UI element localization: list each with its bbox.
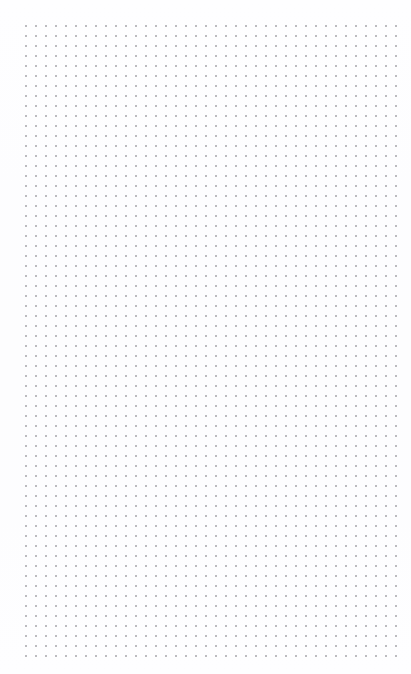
canvas-empty-state-label: [0, 0, 1, 1]
canvas-content-layer[interactable]: [0, 0, 411, 674]
app-root: [0, 0, 411, 674]
canvas-viewport[interactable]: [0, 0, 411, 674]
